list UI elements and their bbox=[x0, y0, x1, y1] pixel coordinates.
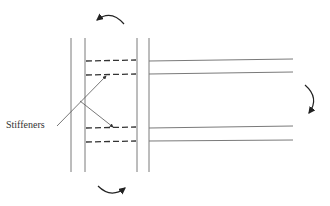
moment-arrow-top-icon bbox=[97, 15, 124, 24]
beam-top-flange-upper bbox=[149, 59, 293, 61]
stiffener-1 bbox=[86, 60, 136, 61]
stiffener-2 bbox=[86, 74, 136, 75]
stiffener-4 bbox=[86, 141, 136, 142]
beam-column-connection-diagram bbox=[0, 0, 330, 206]
stiffeners bbox=[86, 60, 136, 142]
beam-bottom-flange-lower bbox=[149, 140, 293, 141]
leader-line-upper bbox=[57, 76, 106, 126]
beam bbox=[149, 59, 293, 141]
column bbox=[71, 38, 149, 172]
stiffener-3 bbox=[86, 127, 136, 128]
moment-arrow-right-icon bbox=[305, 85, 314, 113]
moment-arrows bbox=[97, 15, 314, 193]
stiffeners-label: Stiffeners bbox=[6, 119, 45, 130]
beam-bottom-flange-upper bbox=[149, 126, 293, 128]
beam-top-flange-lower bbox=[149, 72, 293, 74]
moment-arrow-bottom-icon bbox=[98, 186, 125, 193]
